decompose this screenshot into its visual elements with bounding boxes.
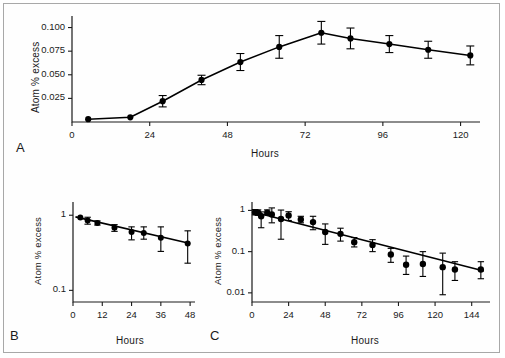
panel-c-point-18 [478,262,484,279]
panel-c-ytick-1: 0.1 [185,245,245,256]
panel-a-xtick-0: 0 [42,129,102,140]
panel-a-ytick-1: 0.050 [5,68,65,79]
panel-b-plot [0,180,205,358]
panel-a-point-2 [159,96,167,107]
panel-b-point-5 [141,227,147,239]
panel-a-ytick-3: 0.100 [5,21,65,32]
panel-a-point-4 [236,54,244,71]
panel-b-x-axis-title: Hours [85,335,175,346]
panel-a-letter: A [16,140,25,155]
panel-a: Atom % excess Hours A 0.0250.0500.0750.1… [0,0,505,170]
panel-c-point-7 [298,216,304,223]
panel-c-x-axis-title: Hours [320,335,410,346]
panel-a-point-7 [346,28,354,49]
panel-a-plot [0,0,505,170]
panel-b-point-0 [77,215,83,221]
panel-c-xtick-6: 144 [442,309,502,320]
panel-c-point-14 [403,256,409,274]
panel-c-point-9 [322,224,328,244]
panel-b-letter: B [10,328,19,343]
panel-a-point-6 [317,21,325,44]
panel-c: Atom % excess Hours C 10.10.010244872961… [195,180,505,358]
panel-b-point-2 [94,220,100,226]
panel-a-xtick-4: 96 [353,129,413,140]
panel-c-ytick-0: 1 [185,203,245,214]
panel-c-point-5 [278,210,284,239]
panel-a-x-axis-title: Hours [220,148,310,159]
panel-c-point-10 [337,228,343,241]
panel-c-letter: C [210,328,219,343]
panel-b-ytick-1: 0.1 [6,283,66,294]
panel-a-point-9 [424,41,432,58]
panel-a-ytick-2: 0.075 [5,44,65,55]
panel-a-xtick-2: 48 [197,129,257,140]
panel-c-point-2 [258,212,264,228]
panel-b-point-6 [158,227,164,252]
panel-b-ytick-0: 1 [6,208,66,219]
panel-a-xtick-3: 72 [275,129,335,140]
panel-a-point-0 [85,116,91,122]
panel-b-y-axis-title: Atom % excess [32,217,43,285]
panel-a-xtick-1: 24 [120,129,180,140]
figure-container: Atom % excess Hours A 0.0250.0500.0750.1… [0,0,505,358]
panel-c-ytick-2: 0.01 [185,286,245,297]
panel-a-ytick-0: 0.025 [5,91,65,102]
panel-c-point-13 [388,248,394,262]
panel-a-point-3 [198,75,206,84]
panel-a-point-1 [127,114,133,120]
panel-a-point-5 [275,36,283,59]
panel-a-point-10 [466,46,474,65]
panel-c-point-6 [285,212,291,221]
panel-b-point-1 [84,217,90,224]
panel-b: Atom % excess Hours B 10.1012243648 [0,180,205,358]
panel-a-point-8 [385,36,393,53]
panel-a-xtick-5: 120 [431,129,491,140]
